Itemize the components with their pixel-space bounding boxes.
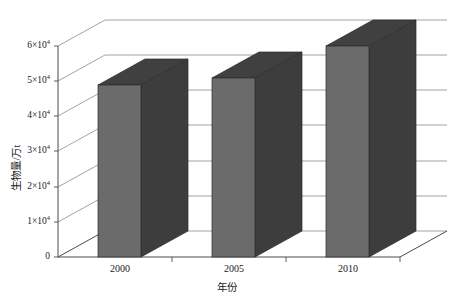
bar-2005-front-face — [212, 78, 255, 257]
bar-2005-side-face — [255, 52, 302, 257]
y-axis-ticks — [54, 46, 58, 257]
gridline-riser-50000 — [58, 55, 105, 81]
bar-2010-side-face — [369, 20, 416, 257]
y-tick-label-50000: 5×104 — [4, 75, 50, 85]
bar-2000[interactable] — [98, 59, 188, 257]
bar-2005[interactable] — [212, 52, 302, 257]
y-tick-label-60000: 6×104 — [4, 40, 50, 50]
y-tick-label-0: 0 — [4, 251, 50, 261]
bar-2010-front-face — [326, 46, 369, 257]
chart-canvas — [0, 0, 454, 299]
y-tick-label-10000: 1×104 — [4, 216, 50, 226]
x-tick-label-2005: 2005 — [199, 263, 269, 274]
x-tick-label-2000: 2000 — [85, 263, 155, 274]
x-axis-title: 年份 — [177, 279, 277, 294]
bar-2000-front-face — [98, 85, 141, 257]
x-axis-ticks — [172, 257, 400, 262]
chart-3d-bar-biomass-by-year: 6×104 5×104 4×104 3×104 2×104 1×104 0 20… — [0, 0, 454, 299]
bar-2000-side-face — [141, 59, 188, 257]
y-axis-title: 生物量/万t — [8, 111, 23, 191]
gridline-riser-60000 — [58, 20, 105, 46]
x-tick-label-2010: 2010 — [313, 263, 383, 274]
bar-2010[interactable] — [326, 20, 416, 257]
